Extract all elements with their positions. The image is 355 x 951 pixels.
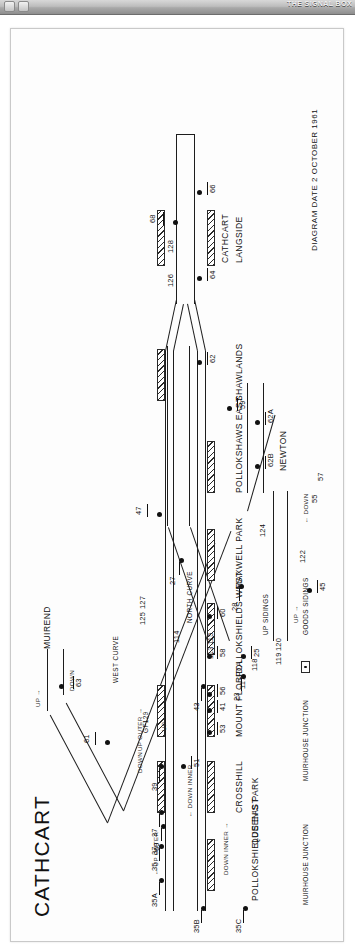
signal-post	[95, 732, 96, 745]
signal-label-124: 124	[259, 524, 267, 537]
signal-label-128: 128	[167, 240, 175, 253]
station-label-crosshill: CROSSHILL	[235, 761, 244, 813]
signal-label-68: 68	[149, 214, 157, 223]
signal-label-117: 117	[239, 676, 247, 689]
track-goods-sidings	[273, 491, 274, 641]
signal-dot[interactable]	[307, 588, 312, 593]
signal-dot[interactable]	[105, 740, 110, 745]
signal-label-126: 126	[167, 274, 175, 287]
signal-dot[interactable]	[173, 220, 178, 225]
platform-pollokshaws-east	[207, 529, 215, 581]
platform-pollokshields-east	[207, 839, 215, 891]
track-newton-a	[247, 383, 248, 493]
direction-label-down-inner: ← DOWN INNER	[187, 764, 193, 817]
ground-frame-label: GF129	[143, 711, 149, 733]
signal-post	[201, 688, 202, 701]
signal-label-122: 122	[299, 550, 307, 563]
station-label-langside: LANGSIDE	[235, 216, 244, 263]
signal-dot[interactable]	[59, 684, 64, 689]
signal-dot[interactable]	[207, 692, 212, 697]
direction-label-up-sidings: UP →	[293, 605, 299, 623]
diagram-sheet: CATHCART DIAGRAM DATE 2 OCTOBER 1961	[10, 28, 344, 942]
signal-label-59: 59	[239, 400, 247, 409]
track-down-inner-lower	[197, 351, 198, 911]
signal-label-127: 127	[139, 596, 147, 609]
signal-label-120: 120	[275, 638, 283, 651]
signal-label-41: 41	[219, 702, 227, 711]
chrome-window-title: THE SIGNAL BOX	[287, 0, 352, 7]
destination-label-newton: NEWTON	[279, 431, 288, 471]
signal-label-25: 25	[253, 648, 261, 657]
signal-dot[interactable]	[207, 654, 212, 659]
signal-dot[interactable]	[157, 512, 162, 517]
signal-label-62A: 62A	[267, 409, 275, 423]
siding-label-up-sidings: UP SIDINGS	[263, 594, 269, 635]
signal-label-37b: 37	[151, 846, 159, 855]
platform-shawlands	[207, 441, 215, 493]
direction-label-up-west: UP	[161, 722, 167, 731]
direction-label-down-west: DOWN	[137, 752, 143, 773]
signal-dot[interactable]	[197, 360, 202, 365]
forward-button[interactable]	[18, 1, 29, 12]
signal-label-51: 51	[193, 758, 201, 767]
platform-cathcart-down	[207, 210, 215, 266]
signal-post	[159, 814, 160, 827]
diagram-date: DIAGRAM DATE 2 OCTOBER 1961	[311, 109, 319, 251]
signal-label-114: 114	[173, 630, 181, 643]
signal-post	[243, 910, 244, 923]
signal-label-35B: 35B	[193, 919, 201, 933]
track-cathcart-end	[176, 134, 195, 135]
signal-label-60: 60	[219, 608, 227, 617]
signal-label-45: 45	[319, 582, 327, 591]
signal-post	[147, 504, 148, 517]
signal-label-35: 35	[151, 862, 159, 871]
destination-label-muirend: MUIREND	[43, 606, 52, 649]
signal-post	[179, 562, 180, 575]
track-muirend-up	[47, 649, 48, 711]
signal-dot[interactable]	[207, 730, 212, 735]
signal-label-125: 125	[139, 612, 147, 625]
signal-label-58: 58	[219, 648, 227, 657]
track-newton-b	[263, 383, 264, 493]
signal-label-39: 39	[151, 782, 159, 791]
curve-label-west: WEST CURVE	[113, 636, 119, 683]
track-muirend-connect-up	[50, 715, 109, 823]
signal-post	[239, 588, 240, 601]
station-label-shawlands: SHAWLANDS	[235, 343, 244, 401]
direction-label-down-goods: ← DOWN	[303, 493, 309, 523]
signal-dot[interactable]	[227, 406, 232, 411]
signal-dot[interactable]	[197, 276, 202, 281]
signal-label-63: 63	[75, 678, 83, 687]
direction-label-down-inner-2: DOWN INNER →	[223, 822, 229, 875]
signal-label-118: 118	[251, 658, 259, 671]
signal-post	[159, 768, 160, 781]
signal-label-56: 56	[219, 686, 227, 695]
signal-label-61: 61	[83, 734, 91, 743]
ground-frame-box[interactable]	[301, 661, 310, 673]
platform-queens-park	[207, 761, 215, 813]
platform-langside	[157, 349, 165, 401]
back-button[interactable]	[4, 1, 15, 12]
track-cathcart-down	[194, 134, 195, 304]
siding-label-goods-sidings: GOODS SIDINGS	[303, 577, 309, 635]
page-title: CATHCART	[31, 795, 52, 917]
signal-dot[interactable]	[255, 420, 260, 425]
curve-label-north: NORTH CURVE	[187, 571, 193, 623]
signal-label-62: 62	[209, 354, 217, 363]
screenshot-root: THE SIGNAL BOX CATHCART DIAGRAM DATE 2 O…	[0, 0, 355, 951]
signal-dot[interactable]	[181, 764, 186, 769]
signal-dot[interactable]	[197, 190, 202, 195]
signal-label-115: 115	[207, 632, 215, 645]
signal-dot[interactable]	[241, 654, 246, 659]
station-label-pollokshields-east: POLLOKSHIELDS EAST	[251, 798, 260, 901]
signal-dot[interactable]	[255, 464, 260, 469]
signal-dot[interactable]	[207, 708, 212, 713]
signal-label-43: 43	[193, 702, 201, 711]
track-curve-join-b	[189, 346, 190, 526]
station-label-cathcart: CATHCART	[221, 214, 230, 263]
signal-label-64: 64	[209, 270, 217, 279]
signal-label-57: 57	[317, 472, 325, 481]
junction-label-muirhouse-1: MUIRHOUSE JUNCTION	[303, 824, 309, 905]
signal-dot[interactable]	[207, 614, 212, 619]
chrome-navigation-buttons	[4, 1, 29, 12]
